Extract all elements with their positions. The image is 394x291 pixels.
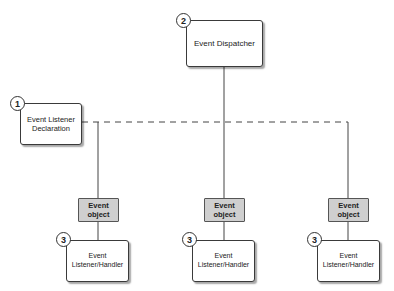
declaration-label-line2: Declaration: [27, 124, 75, 133]
event-listener-handler-box: Event Listener/Handler: [317, 240, 380, 282]
listener-label-line2: Listener/Handler: [198, 261, 249, 270]
listener-label-line1: Event: [72, 252, 123, 261]
event-object-box: Event object: [204, 198, 245, 222]
event-dispatcher-box: Event Dispatcher: [186, 20, 263, 67]
event-object-label-line1: Event: [337, 201, 359, 210]
step-badge-1: 1: [10, 96, 25, 111]
step-badge-3: 3: [307, 232, 322, 247]
listener-label-line2: Listener/Handler: [323, 261, 374, 270]
event-object-label-line1: Event: [213, 201, 235, 210]
event-object-label-line2: object: [87, 210, 109, 219]
event-object-label-line2: object: [337, 210, 359, 219]
step-badge-3: 3: [182, 232, 197, 247]
event-object-box: Event object: [78, 198, 119, 222]
event-object-label-line1: Event: [87, 201, 109, 210]
listener-label-line1: Event: [323, 252, 374, 261]
event-object-label-line2: object: [213, 210, 235, 219]
declaration-label-line1: Event Listener: [27, 115, 75, 124]
listener-label-line1: Event: [198, 252, 249, 261]
step-badge-2: 2: [176, 13, 191, 28]
event-listener-handler-box: Event Listener/Handler: [192, 240, 255, 282]
listener-label-line2: Listener/Handler: [72, 261, 123, 270]
event-listener-declaration-box: Event Listener Declaration: [20, 103, 82, 145]
step-badge-3: 3: [56, 232, 71, 247]
event-object-box: Event object: [328, 198, 369, 222]
event-dispatcher-label: Event Dispatcher: [194, 39, 255, 49]
event-listener-handler-box: Event Listener/Handler: [66, 240, 129, 282]
